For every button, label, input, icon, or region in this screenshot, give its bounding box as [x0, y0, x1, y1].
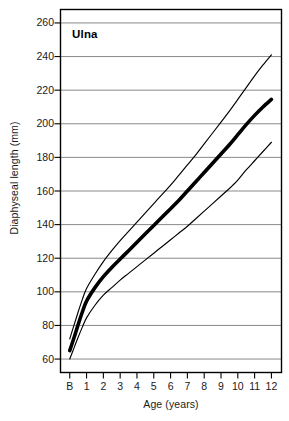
y-tick-label: 80	[20, 320, 54, 331]
data-series	[70, 55, 272, 359]
y-tick-label: 200	[20, 118, 54, 129]
y-tick-label: 220	[20, 85, 54, 96]
y-axis-title: Diaphyseal length (mm)	[8, 78, 20, 278]
x-axis-ticks	[70, 373, 272, 379]
y-axis-ticks	[55, 23, 61, 359]
series-line-2	[70, 142, 272, 359]
x-tick-label: 12	[260, 381, 282, 392]
y-tick-label: 180	[20, 152, 54, 163]
gridlines	[61, 23, 282, 359]
y-tick-label: 120	[20, 253, 54, 264]
growth-chart: Diaphyseal length (mm) Age (years) Ulna …	[0, 0, 289, 421]
y-tick-label: 60	[20, 354, 54, 365]
y-tick-label: 100	[20, 286, 54, 297]
series-line-0	[70, 55, 272, 339]
y-tick-label: 240	[20, 51, 54, 62]
y-tick-label: 160	[20, 186, 54, 197]
y-tick-label: 140	[20, 219, 54, 230]
y-tick-label: 260	[20, 17, 54, 28]
x-axis-title: Age (years)	[60, 398, 282, 410]
chart-title: Ulna	[72, 28, 98, 40]
